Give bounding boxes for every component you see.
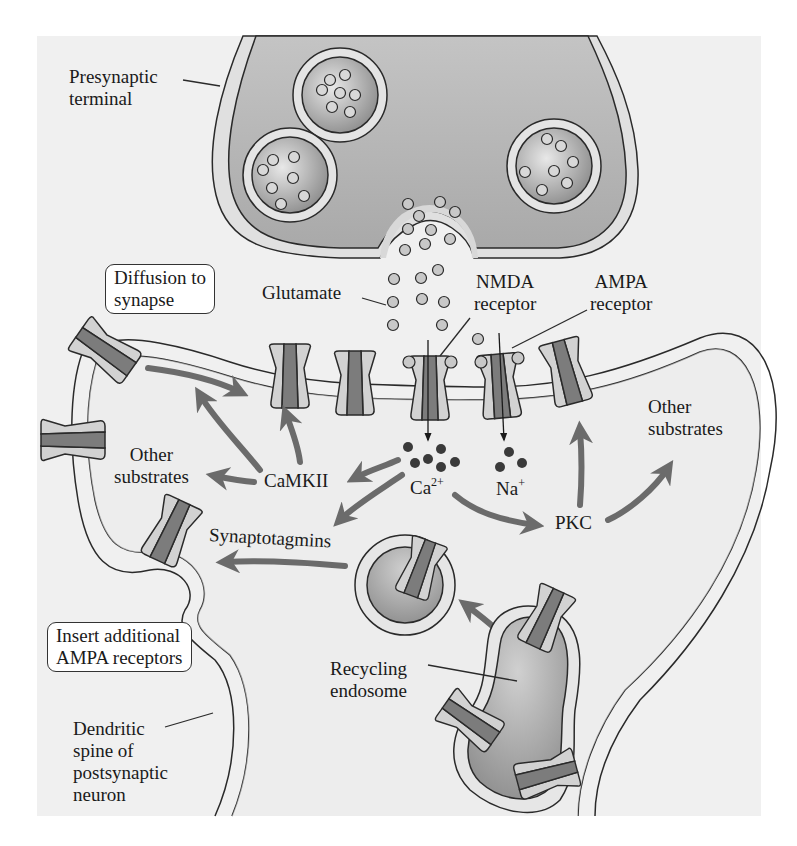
insert-ampa-receptors-box: Insert additional AMPA receptors — [47, 622, 192, 672]
ampa-receptor-1 — [270, 344, 311, 408]
dendritic-spine-label: Dendritic spine of postsynaptic neuron — [73, 718, 168, 806]
pkc-label: PKC — [555, 512, 592, 534]
glutamate-label: Glutamate — [262, 282, 341, 304]
other-substrates-left-label: Other substrates — [114, 444, 189, 488]
synaptic-vesicle — [293, 48, 387, 142]
recycling-endosome-label: Recycling endosome — [330, 658, 407, 702]
receptor-lateral-2 — [41, 420, 105, 461]
calcium-label: Ca2+ — [410, 477, 444, 499]
pkc-to-ampa-arrow — [580, 430, 582, 505]
other-substrates-right-label: Other substrates — [648, 396, 723, 440]
ampa-receptor-label: AMPA receptor — [590, 271, 652, 315]
camkii-label: CaMKII — [264, 470, 328, 492]
ampa-receptor-2 — [335, 351, 376, 415]
presynaptic-terminal-label: Presynaptic terminal — [69, 66, 158, 110]
diagram-canvas: Presynaptic terminal Diffusion to synaps… — [0, 0, 797, 846]
nmda-receptor-label: NMDA receptor — [474, 271, 536, 315]
diffusion-to-synapse-box: Diffusion to synapse — [105, 264, 215, 314]
transport-vesicle — [355, 535, 455, 635]
synaptic-vesicle — [507, 119, 601, 213]
synaptic-vesicle — [243, 128, 337, 222]
sodium-label: Na+ — [496, 478, 525, 500]
